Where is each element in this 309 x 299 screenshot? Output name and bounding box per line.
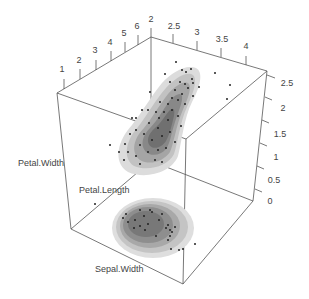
y-tick-label: 4 [243, 41, 248, 51]
z-tick-label: 2 [280, 103, 285, 113]
x-tick-label: 3 [92, 45, 97, 55]
z-tick-label: 1.5 [274, 129, 287, 139]
y-tick-label: 3 [194, 27, 199, 37]
y-tick-label: 3.5 [216, 34, 229, 44]
x-axis-title: Petal.Length [79, 185, 130, 195]
density-shells-lower [112, 198, 194, 258]
y-tick-label: 2 [148, 14, 153, 24]
y-axis-title: Sepal.Width [95, 264, 144, 274]
x-axis-ticks [64, 35, 138, 89]
z-tick-label: 0 [267, 196, 272, 206]
scatter-3d-plot [0, 0, 309, 299]
z-tick-label: 2.5 [281, 78, 294, 88]
x-tick-label: 2 [76, 55, 81, 65]
z-tick-label: 1 [273, 152, 278, 162]
x-tick-label: 5 [121, 28, 126, 38]
x-tick-label: 6 [134, 21, 139, 31]
x-tick-label: 4 [107, 37, 112, 47]
y-tick-label: 2.5 [168, 21, 181, 31]
z-axis-title: Petal.Width [18, 158, 64, 168]
x-tick-label: 1 [59, 64, 64, 74]
density-shells-upper [118, 67, 200, 175]
z-tick-label: 0.5 [268, 175, 281, 185]
